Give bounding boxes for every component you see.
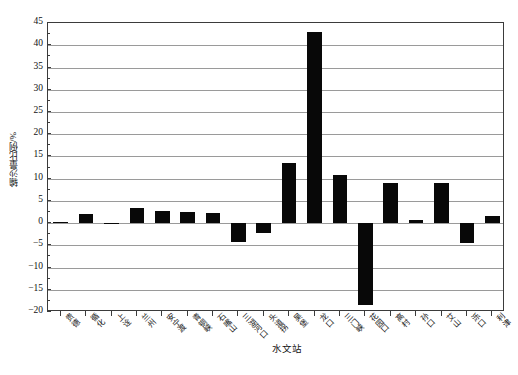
x-tick-mark xyxy=(161,311,162,316)
y-tick-label: −5 xyxy=(11,239,43,249)
y-tick-label: 45 xyxy=(11,17,43,27)
x-tick-mark xyxy=(390,311,391,316)
x-tick-mark xyxy=(364,311,365,316)
y-tick-label: 0 xyxy=(11,217,43,227)
x-tick-mark xyxy=(263,311,264,316)
y-tick-label: 5 xyxy=(11,195,43,205)
bar xyxy=(434,183,449,223)
x-tick-mark xyxy=(466,311,467,316)
x-tick-label: 青铜峡 xyxy=(189,312,212,335)
y-tick-label: −15 xyxy=(11,284,43,294)
y-tick-minor xyxy=(47,255,50,256)
y-tick-mark xyxy=(47,267,51,268)
x-tick-label: 兰州 xyxy=(139,312,156,329)
bar xyxy=(333,175,348,223)
gridline xyxy=(48,45,503,46)
x-tick-label: 头道拐 xyxy=(265,312,288,335)
gridline xyxy=(48,90,503,91)
bar-chart-figure: 输沙量比例/% 454035302520151050−5−10−15−20 贵德… xyxy=(0,0,518,375)
bar xyxy=(409,220,424,223)
bar xyxy=(130,208,145,223)
bar xyxy=(307,32,322,223)
x-tick-label: 高村 xyxy=(392,312,409,329)
y-tick-minor xyxy=(47,233,50,234)
y-tick-label: 40 xyxy=(11,39,43,49)
x-tick-mark xyxy=(212,311,213,316)
gridline xyxy=(48,245,503,246)
x-tick-mark xyxy=(60,311,61,316)
y-tick-mark xyxy=(47,44,51,45)
gridline xyxy=(48,112,503,113)
x-tick-mark xyxy=(111,311,112,316)
bar xyxy=(485,216,500,223)
x-tick-label: 龙口 xyxy=(316,312,333,329)
x-tick-label: 吴堡 xyxy=(291,312,308,329)
y-tick-label: 20 xyxy=(11,128,43,138)
x-tick-mark xyxy=(441,311,442,316)
x-tick-label: 三湖河口 xyxy=(240,312,269,341)
x-tick-label: 花园口 xyxy=(367,312,390,335)
x-axis-title: 水文站 xyxy=(272,341,302,355)
bar xyxy=(206,213,221,223)
bar xyxy=(104,223,119,224)
x-tick-mark xyxy=(314,311,315,316)
y-tick-label: −20 xyxy=(11,306,43,316)
y-tick-mark xyxy=(47,89,51,90)
y-tick-mark xyxy=(47,289,51,290)
y-tick-mark xyxy=(47,222,51,223)
bar xyxy=(460,223,475,243)
y-tick-mark xyxy=(47,22,51,23)
x-tick-label: 贵德 xyxy=(62,312,79,329)
y-tick-label: 10 xyxy=(11,173,43,183)
bar xyxy=(282,163,297,223)
x-tick-mark xyxy=(237,311,238,316)
plot-area xyxy=(47,22,504,311)
gridline xyxy=(48,68,503,69)
bar xyxy=(256,223,271,233)
y-tick-minor xyxy=(47,278,50,279)
x-tick-mark xyxy=(85,311,86,316)
y-tick-minor xyxy=(47,33,50,34)
y-tick-minor xyxy=(47,78,50,79)
bar xyxy=(383,183,398,223)
gridline xyxy=(48,268,503,269)
y-tick-minor xyxy=(47,167,50,168)
y-tick-minor xyxy=(47,122,50,123)
y-tick-mark xyxy=(47,133,51,134)
y-tick-label: 15 xyxy=(11,150,43,160)
y-tick-minor xyxy=(47,211,50,212)
y-tick-mark xyxy=(47,244,51,245)
x-tick-label: 石嘴山 xyxy=(215,312,238,335)
x-tick-label: 利津 xyxy=(494,312,511,329)
y-tick-mark xyxy=(47,111,51,112)
y-tick-label: 25 xyxy=(11,106,43,116)
y-tick-minor xyxy=(47,55,50,56)
y-tick-minor xyxy=(47,300,50,301)
x-tick-label: 循化 xyxy=(88,312,105,329)
bar xyxy=(155,211,170,223)
bar xyxy=(358,223,373,305)
x-tick-mark xyxy=(339,311,340,316)
x-tick-label: 孙口 xyxy=(418,312,435,329)
x-tick-label: 艾山 xyxy=(443,312,460,329)
gridline xyxy=(48,156,503,157)
gridline xyxy=(48,290,503,291)
y-tick-label: 30 xyxy=(11,84,43,94)
x-tick-label: 安宁渡 xyxy=(164,312,187,335)
x-tick-mark xyxy=(415,311,416,316)
y-tick-mark xyxy=(47,200,51,201)
gridline xyxy=(48,134,503,135)
y-tick-label: −10 xyxy=(11,262,43,272)
y-tick-mark xyxy=(47,155,51,156)
x-tick-mark xyxy=(136,311,137,316)
y-tick-minor xyxy=(47,100,50,101)
y-tick-label: 35 xyxy=(11,62,43,72)
y-tick-mark xyxy=(47,311,51,312)
x-tick-mark xyxy=(187,311,188,316)
x-tick-mark xyxy=(288,311,289,316)
bar xyxy=(180,212,195,224)
bar xyxy=(231,223,246,242)
x-tick-label: 三门峡 xyxy=(342,312,365,335)
y-tick-mark xyxy=(47,67,51,68)
gridline xyxy=(48,179,503,180)
